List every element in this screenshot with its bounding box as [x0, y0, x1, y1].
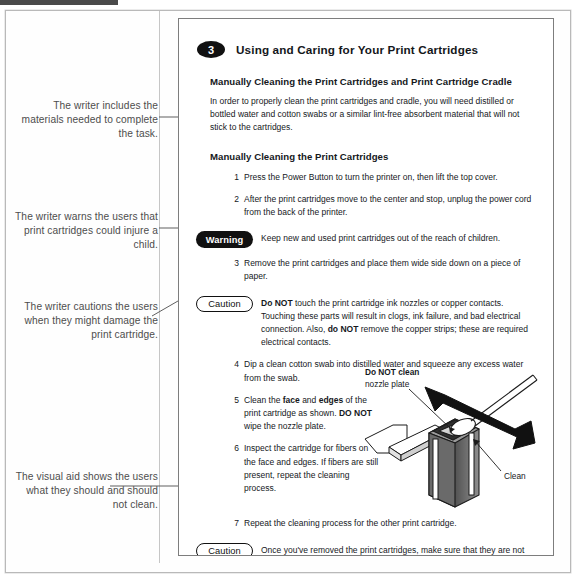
annotation-column: The writer includes the materials needed…	[6, 11, 159, 563]
illustration-label-do-not-clean: Do NOT clean nozzle plate	[365, 367, 441, 390]
step5-c: and	[300, 395, 319, 405]
step5-e: wipe the nozzle plate.	[244, 421, 326, 431]
callout-caution-1: Caution Do NOT touch the print cartridge…	[196, 296, 537, 350]
caution-lead-bold: Do NOT	[261, 298, 293, 308]
step-number: 5	[227, 394, 239, 407]
step-number: 3	[227, 257, 239, 270]
step-2: 2 After the print cartridges move to the…	[227, 193, 537, 219]
caution-badge: Caution	[196, 296, 253, 312]
step-number: 7	[227, 517, 239, 530]
column-divider	[159, 11, 160, 563]
callout-warning: Warning Keep new and used print cartridg…	[196, 231, 537, 248]
step-1: 1 Press the Power Button to turn the pri…	[227, 171, 537, 184]
annotation-materials: The writer includes the materials needed…	[12, 99, 158, 142]
step-text: Remove the print cartridges and place th…	[244, 258, 520, 281]
annotation-visual-aid: The visual aid shows the users what they…	[12, 470, 158, 513]
intro-paragraph: In order to properly clean the print car…	[210, 95, 530, 135]
step-number: 1	[227, 171, 239, 184]
do-not-clean-bold: Do NOT clean	[365, 367, 419, 377]
caution-badge: Caution	[196, 543, 253, 556]
callout-caution-2: Caution Once you've removed the print ca…	[196, 543, 537, 556]
document-content: 3 Using and Caring for Your Print Cartri…	[179, 19, 553, 556]
warning-text: Keep new and used print cartridges out o…	[261, 231, 537, 245]
step-text: Clean the face and edges of the print ca…	[244, 395, 372, 431]
chapter-heading: 3 Using and Caring for Your Print Cartri…	[197, 41, 537, 58]
nozzle-plate-label: nozzle plate	[365, 379, 409, 389]
step5-face: face	[283, 395, 300, 405]
caution-lead-bold-2: do NOT	[328, 324, 359, 334]
step-text: Inspect the cartridge for fibers on the …	[244, 443, 378, 493]
step-text: After the print cartridges move to the c…	[244, 194, 531, 217]
document-panel: 3 Using and Caring for Your Print Cartri…	[178, 18, 554, 556]
cartridge-illustration: Do NOT clean nozzle plate Clean	[363, 367, 554, 515]
step-6: 6 Inspect the cartridge for fibers on th…	[227, 442, 379, 495]
step-text: Repeat the cleaning process for the othe…	[244, 518, 457, 528]
step-3: 3 Remove the print cartridges and place …	[227, 257, 537, 283]
step5-a: Clean the	[244, 395, 283, 405]
step-5: 5 Clean the face and edges of the print …	[227, 394, 379, 434]
step-7: 7 Repeat the cleaning process for the ot…	[227, 517, 537, 530]
caution-text-1: Do NOT touch the print cartridge ink noz…	[261, 296, 537, 350]
caution-text-2: Once you've removed the print cartridges…	[261, 543, 537, 556]
annotation-caution: The writer cautions the users when they …	[12, 300, 158, 343]
warning-badge: Warning	[196, 231, 253, 248]
step-text: Press the Power Button to turn the print…	[244, 172, 498, 182]
illustration-label-clean: Clean	[504, 471, 526, 483]
top-dark-bar	[0, 0, 118, 5]
chapter-number-badge: 3	[197, 41, 225, 58]
section-heading-2: Manually Cleaning the Print Cartridges	[210, 151, 537, 162]
step5-edges: edges	[319, 395, 344, 405]
step-number: 2	[227, 193, 239, 206]
chapter-title: Using and Caring for Your Print Cartridg…	[236, 43, 478, 56]
step-number: 6	[227, 442, 239, 455]
section-heading-1: Manually Cleaning the Print Cartridges a…	[210, 76, 537, 87]
step-number: 4	[227, 358, 239, 371]
screenshot-root: The writer includes the materials needed…	[0, 0, 577, 585]
annotation-warning: The writer warns the users that print ca…	[12, 210, 158, 253]
